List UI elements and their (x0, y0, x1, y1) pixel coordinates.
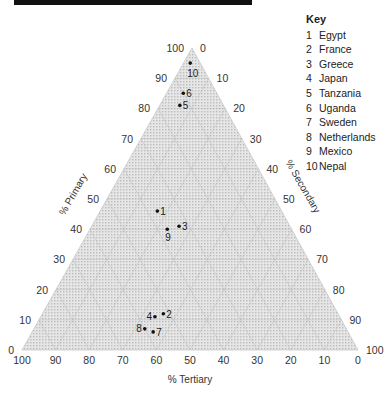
secondary-tick-label: 50 (283, 193, 295, 205)
secondary-tick-label: 90 (349, 314, 361, 326)
secondary-tick-label: 20 (233, 102, 245, 114)
data-point-marker (177, 224, 181, 228)
secondary-tick-label: 10 (217, 72, 229, 84)
data-point-marker (165, 227, 169, 231)
legend-item-number: 4 (306, 71, 319, 86)
tertiary-tick-label: 30 (251, 354, 263, 366)
legend-item-number: 3 (306, 57, 319, 72)
legend-item-label: Tanzania (319, 86, 361, 101)
data-point-marker (143, 327, 147, 331)
legend-item-number: 7 (306, 115, 319, 130)
legend-item-label: Greece (319, 57, 353, 72)
legend-item: 2France (306, 42, 376, 57)
primary-tick-label: 90 (155, 72, 167, 84)
data-point-label: 9 (165, 232, 171, 243)
tertiary-tick-label: 40 (218, 354, 230, 366)
legend-item-label: Japan (319, 71, 348, 86)
data-point-label: 3 (182, 221, 188, 232)
tertiary-tick-label: 0 (355, 354, 361, 366)
legend-item-label: Netherlands (319, 130, 376, 145)
legend-item: 5Tanzania (306, 86, 376, 101)
tertiary-tick-label: 90 (50, 354, 62, 366)
data-point-marker (153, 315, 157, 319)
data-point-label: 8 (136, 323, 142, 334)
tertiary-tick-label: 50 (184, 354, 196, 366)
tertiary-axis-title: % Tertiary (168, 374, 212, 385)
primary-tick-label: 30 (53, 253, 65, 265)
legend-item: 7Sweden (306, 115, 376, 130)
tertiary-tick-label: 20 (285, 354, 297, 366)
tertiary-tick-label: 60 (151, 354, 163, 366)
data-point-label: 2 (166, 309, 172, 320)
legend-item: 3Greece (306, 57, 376, 72)
legend-item: 4Japan (306, 71, 376, 86)
secondary-tick-label: 30 (250, 133, 262, 145)
legend-item-label: Sweden (319, 115, 357, 130)
legend-item: 1Egypt (306, 28, 376, 43)
legend-item-number: 8 (306, 130, 319, 145)
legend-item-label: Mexico (319, 144, 352, 159)
secondary-tick-label: 70 (316, 253, 328, 265)
data-point-label: 1 (160, 206, 166, 217)
data-point-label: 7 (156, 327, 162, 338)
legend-item: 10Nepal (306, 159, 376, 174)
legend-item-number: 10 (306, 159, 319, 174)
secondary-tick-label: 80 (333, 284, 345, 296)
secondary-tick-label: 100 (366, 344, 384, 356)
secondary-tick-label: 60 (300, 223, 312, 235)
primary-tick-label: 80 (138, 102, 150, 114)
data-point-marker (156, 209, 160, 213)
data-point-label: 10 (187, 68, 199, 79)
legend: Key 1Egypt2France3Greece4Japan5Tanzania6… (306, 12, 376, 174)
legend-item: 6Uganda (306, 101, 376, 116)
tertiary-tick-label: 10 (319, 354, 331, 366)
primary-tick-label: 10 (19, 314, 31, 326)
data-point-marker (178, 104, 182, 108)
data-point-label: 5 (183, 100, 189, 111)
tertiary-tick-label: 80 (83, 354, 95, 366)
data-point-marker (188, 61, 192, 65)
legend-item-number: 2 (306, 42, 319, 57)
primary-tick-label: 100 (166, 42, 184, 54)
secondary-tick-label: 40 (266, 163, 278, 175)
primary-tick-label: 50 (87, 193, 99, 205)
primary-tick-label: 40 (70, 223, 82, 235)
legend-item-number: 5 (306, 86, 319, 101)
data-point-marker (151, 330, 155, 334)
tertiary-ticks: 1009080706050403020100 (13, 354, 361, 366)
legend-item-number: 9 (306, 144, 319, 159)
legend-item-number: 1 (306, 28, 319, 43)
legend-item-label: France (319, 42, 352, 57)
legend-title: Key (306, 12, 376, 27)
data-point-label: 6 (186, 88, 192, 99)
tertiary-tick-label: 100 (13, 354, 31, 366)
data-point-label: 4 (146, 311, 152, 322)
primary-axis-title: % Primary (57, 172, 90, 217)
legend-item: 8Netherlands (306, 130, 376, 145)
legend-item: 9Mexico (306, 144, 376, 159)
tertiary-tick-label: 70 (117, 354, 129, 366)
primary-tick-label: 20 (36, 284, 48, 296)
primary-tick-label: 60 (104, 163, 116, 175)
legend-item-label: Nepal (319, 159, 346, 174)
legend-item-number: 6 (306, 101, 319, 116)
legend-item-label: Uganda (319, 101, 356, 116)
primary-tick-label: 70 (121, 133, 133, 145)
data-point-marker (162, 312, 166, 316)
legend-item-label: Egypt (319, 28, 346, 43)
secondary-tick-label: 0 (200, 42, 206, 54)
data-point-marker (182, 92, 186, 96)
